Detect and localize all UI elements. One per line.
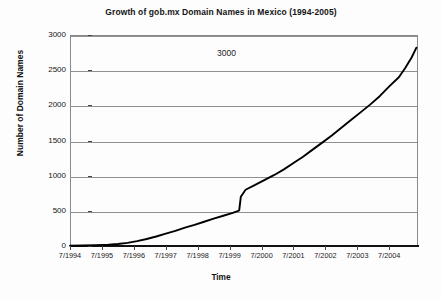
y-tick-label: 500: [26, 207, 66, 215]
x-tick-mark: [357, 246, 358, 250]
series-line-gob-mx: [70, 48, 416, 246]
y-tick-label: 1500: [26, 137, 66, 145]
y-tick-label: 1000: [26, 172, 66, 180]
x-tick-mark: [198, 246, 199, 250]
x-tick-mark: [70, 246, 71, 250]
y-tick-label: 2000: [26, 101, 66, 109]
x-tick-mark: [230, 246, 231, 250]
chart-figure: Growth of gob.mx Domain Names in Mexico …: [0, 0, 442, 299]
y-tick-label: 0: [26, 242, 66, 250]
x-tick-mark: [389, 246, 390, 250]
x-tick-mark: [262, 246, 263, 250]
y-tick-label: 2500: [26, 66, 66, 74]
x-tick-mark: [134, 246, 135, 250]
series-layer: [70, 30, 430, 250]
x-tick-mark: [325, 246, 326, 250]
chart-title: Growth of gob.mx Domain Names in Mexico …: [0, 7, 442, 17]
y-tick-label: 3000: [26, 31, 66, 39]
x-axis-title: Time: [0, 272, 442, 282]
x-tick-label: 7/2004: [366, 252, 412, 259]
x-tick-mark: [166, 246, 167, 250]
x-tick-mark: [293, 246, 294, 250]
y-axis-ticks: 300025002000150010005000: [22, 35, 66, 246]
x-tick-mark: [102, 246, 103, 250]
